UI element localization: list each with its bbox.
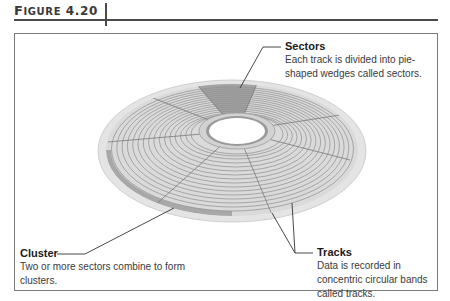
tracks-title: Tracks: [317, 246, 442, 259]
tracks-description: Data is recorded in concentric circular …: [317, 259, 442, 301]
sectors-title: Sectors: [285, 40, 430, 53]
cluster-title: Cluster: [20, 247, 190, 260]
sectors-callout: Sectors Each track is divided into pie-s…: [285, 40, 430, 81]
cluster-description: Two or more sectors combine to form clus…: [20, 260, 190, 288]
sectors-description: Each track is divided into pie-shaped we…: [285, 53, 430, 81]
center-hole: [209, 118, 265, 144]
tracks-leader-line-a: [272, 213, 313, 253]
cluster-callout: Cluster Two or more sectors combine to f…: [20, 247, 190, 288]
tracks-callout: Tracks Data is recorded in concentric ci…: [317, 246, 442, 301]
